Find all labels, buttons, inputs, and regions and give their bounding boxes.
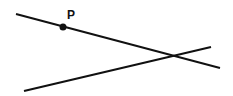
point-p-label: P bbox=[67, 8, 75, 22]
line-through-p bbox=[16, 14, 220, 68]
diagram-canvas: P bbox=[0, 0, 233, 96]
point-p-dot bbox=[60, 24, 67, 31]
second-line bbox=[24, 47, 211, 91]
